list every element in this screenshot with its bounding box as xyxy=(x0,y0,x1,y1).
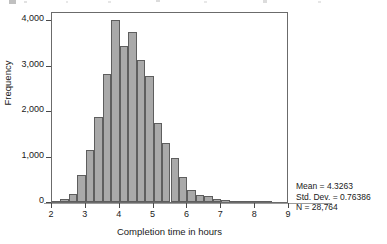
x-tick-label: 5 xyxy=(143,210,163,219)
histogram-bar xyxy=(94,117,102,202)
y-tick-label: 4,000 xyxy=(21,14,44,23)
mean-label: Mean = 4.3263 xyxy=(296,181,371,192)
x-tick-mark xyxy=(186,203,187,208)
histogram-bar xyxy=(204,196,212,202)
x-tick-label: 8 xyxy=(244,210,264,219)
x-tick-label: 9 xyxy=(278,210,298,219)
histogram-bar xyxy=(137,60,145,202)
histogram-bar xyxy=(221,200,229,202)
y-axis: Frequency 0 1,000 2,000 3,000 4,000 xyxy=(0,12,51,204)
histogram-bar xyxy=(86,150,94,202)
y-axis-title: Frequency xyxy=(3,41,13,125)
histogram-bar xyxy=(264,201,272,202)
histogram-bar xyxy=(145,76,153,202)
histogram-bar xyxy=(247,201,255,202)
histogram-bar xyxy=(230,201,238,202)
x-tick-label: 7 xyxy=(210,210,230,219)
histogram-bar xyxy=(213,199,221,202)
histogram-bar xyxy=(196,195,204,202)
histogram-bar xyxy=(77,175,85,202)
histogram-bar xyxy=(187,190,195,202)
y-tick-label: 2,000 xyxy=(21,105,44,114)
x-tick-label: 3 xyxy=(75,210,95,219)
histogram-bar xyxy=(111,20,119,202)
x-tick-mark xyxy=(85,203,86,208)
n-label: N = 28,764 xyxy=(296,202,371,213)
statistics-annotation: Mean = 4.3263 Std. Dev. = 0.76386 N = 28… xyxy=(296,181,371,213)
histogram-bar xyxy=(179,177,187,202)
x-tick-mark xyxy=(288,203,289,208)
y-tick-label: 1,000 xyxy=(21,151,44,160)
x-tick-mark xyxy=(153,203,154,208)
plot-area xyxy=(51,12,288,203)
histogram-bar xyxy=(171,158,179,202)
histogram-bar xyxy=(120,46,128,202)
x-tick-mark xyxy=(51,203,52,208)
x-tick-mark xyxy=(220,203,221,208)
histogram-bar xyxy=(60,199,68,202)
histogram-bar xyxy=(69,194,77,202)
histogram-bar xyxy=(238,201,246,202)
histogram-figure: Frequency 0 1,000 2,000 3,000 4,000 2345… xyxy=(0,0,387,244)
x-tick-label: 4 xyxy=(109,210,129,219)
histogram-bar xyxy=(128,32,136,202)
x-axis-title: Completion time in hours xyxy=(51,227,288,237)
x-tick-mark xyxy=(119,203,120,208)
histogram-bar xyxy=(154,123,162,202)
x-tick-mark xyxy=(254,203,255,208)
histogram-bar xyxy=(103,74,111,202)
y-tick-label: 3,000 xyxy=(21,60,44,69)
histogram-bars xyxy=(52,13,287,202)
x-tick-label: 2 xyxy=(41,210,61,219)
histogram-bar xyxy=(52,201,60,202)
histogram-bar xyxy=(255,201,263,202)
x-tick-label: 6 xyxy=(176,210,196,219)
std-dev-label: Std. Dev. = 0.76386 xyxy=(296,192,371,203)
histogram-bar xyxy=(162,143,170,202)
